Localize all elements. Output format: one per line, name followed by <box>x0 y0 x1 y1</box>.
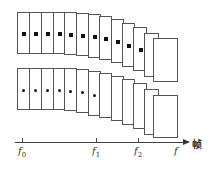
dot-marker-icon <box>22 89 25 92</box>
square-marker-icon <box>34 32 38 36</box>
tick-label-f2: f2 <box>134 146 142 159</box>
square-marker-icon <box>81 34 85 38</box>
square-marker-icon <box>127 44 131 48</box>
dot-marker-icon <box>93 94 96 97</box>
square-marker-icon <box>139 48 143 52</box>
tick-label-f: f <box>174 146 178 156</box>
tick-label-f0: f0 <box>18 146 26 159</box>
dot-marker-icon <box>58 89 61 92</box>
frame-sequence-diagram: 帧 f0f1f2f <box>0 0 217 173</box>
square-marker-icon <box>69 33 73 37</box>
dot-marker-icon <box>46 89 49 92</box>
tick-label-f1: f1 <box>92 146 100 159</box>
square-marker-icon <box>22 32 26 36</box>
axis-arrow-icon <box>183 139 190 145</box>
frame-axis-line <box>15 142 185 143</box>
square-marker-icon <box>93 35 97 39</box>
top-row-frame <box>153 38 178 82</box>
square-marker-icon <box>58 32 62 36</box>
dot-marker-icon <box>34 89 37 92</box>
dot-marker-icon <box>81 91 84 94</box>
axis-tick <box>138 138 139 142</box>
axis-tick <box>96 138 97 142</box>
square-marker-icon <box>46 32 50 36</box>
square-marker-icon <box>116 40 120 44</box>
axis-unit-label: 帧 <box>192 136 202 151</box>
dot-marker-icon <box>69 90 72 93</box>
axis-tick <box>22 138 23 142</box>
bottom-row-frame <box>153 95 178 138</box>
square-marker-icon <box>104 37 108 41</box>
